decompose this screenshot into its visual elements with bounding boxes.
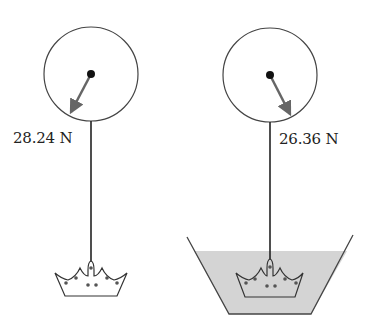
right-panel (187, 28, 353, 314)
spring-scale-dial-right (223, 28, 317, 122)
left-panel (44, 27, 138, 296)
buoyancy-diagram (0, 0, 367, 322)
dial-pivot-right (266, 71, 274, 79)
scale-reading-right: 26.36 N (279, 130, 338, 148)
spring-scale-dial-left (44, 27, 138, 121)
dial-pivot-left (87, 70, 95, 78)
crown-left (55, 261, 127, 296)
dial-needle-left (71, 74, 91, 112)
scale-reading-left: 28.24 N (13, 129, 72, 147)
dial-needle-right (270, 75, 290, 114)
